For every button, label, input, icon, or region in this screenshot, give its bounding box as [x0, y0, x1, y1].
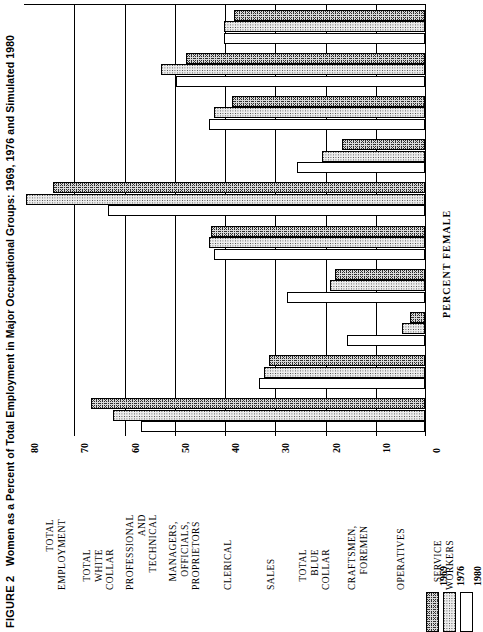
bar-1980	[108, 205, 425, 216]
axis-tick-60	[125, 422, 126, 436]
category-label: OPERATIVES	[395, 528, 407, 590]
category-label-line: TOTAL	[44, 519, 56, 590]
bar-group	[23, 135, 425, 178]
axis-tick-label-50: 50	[180, 443, 191, 453]
axis-tick-label-0: 0	[431, 448, 442, 453]
axis-tick-70	[74, 422, 75, 436]
bar-1969	[53, 182, 425, 193]
axis-tick-30	[275, 422, 276, 436]
legend-label-1976: 1976	[455, 566, 466, 586]
axis-tick-10	[376, 422, 377, 436]
axis-tick-label-40: 40	[230, 443, 241, 453]
bar-1980	[209, 119, 425, 130]
category-label-line: CRAFTSMEN,	[346, 526, 358, 590]
bar-1976	[402, 323, 425, 334]
bar-1969	[342, 139, 425, 150]
category-label-line: COLLAR	[104, 549, 116, 590]
bar-1976	[214, 107, 425, 118]
legend-swatch-1969	[426, 592, 439, 632]
bar-1976	[26, 194, 425, 205]
bar-1969	[91, 398, 425, 409]
category-label-line: COLLAR	[320, 549, 332, 590]
bar-1969	[335, 269, 425, 280]
axis-tick-label-70: 70	[79, 443, 90, 453]
bar-1976	[113, 410, 425, 421]
bar-group	[23, 91, 425, 134]
category-label-line: MANAGERS,	[167, 521, 179, 590]
bar-1969	[410, 312, 425, 323]
category-label: MANAGERS,OFFICIALS,PROPRIETORS	[167, 521, 202, 590]
category-label-line: SALES	[265, 558, 277, 590]
category-label: TOTALEMPLOYMENT	[44, 519, 67, 590]
category-label-line: OPERATIVES	[395, 528, 407, 590]
category-label: TOTALWHITECOLLAR	[81, 549, 116, 590]
category-label: SALES	[265, 558, 277, 590]
bar-group	[23, 178, 425, 221]
bar-group	[23, 5, 425, 48]
legend-label-1969: 1969	[438, 566, 449, 586]
bar-1969	[211, 226, 425, 237]
axis-tick-label-60: 60	[130, 443, 141, 453]
category-label-line: FOREMEN	[358, 526, 370, 590]
bar-1980	[141, 421, 425, 432]
bar-group	[23, 394, 425, 437]
bar-1969	[269, 355, 425, 366]
axis-tick-label-30: 30	[280, 443, 291, 453]
bar-1980	[297, 162, 425, 173]
category-label: TOTALBLUECOLLAR	[297, 549, 332, 590]
bar-1980	[259, 378, 425, 389]
axis-tick-label-80: 80	[29, 443, 40, 453]
category-label: CLERICAL	[222, 539, 234, 590]
legend-label-1980: 1980	[472, 566, 483, 586]
category-label-line: AND	[136, 514, 148, 590]
category-label-line: CLERICAL	[222, 539, 234, 590]
bar-1980	[176, 76, 425, 87]
legend-swatch-1976	[443, 592, 456, 632]
figure-number: FIGURE 2	[4, 576, 16, 628]
category-label-line: WHITE	[93, 549, 105, 590]
category-label-line: EMPLOYMENT	[55, 519, 67, 590]
bar-1976	[161, 64, 425, 75]
figure-title: Women as a Percent of Total Employment i…	[4, 35, 16, 566]
axis-tick-50	[175, 422, 176, 436]
category-axis-labels: TOTALEMPLOYMENTTOTALWHITECOLLARPROFESSIO…	[24, 438, 426, 598]
bar-1969	[186, 53, 425, 64]
bar-1980	[224, 33, 425, 44]
axis-title: PERCENT FEMALE	[441, 210, 452, 318]
bar-1969	[234, 10, 425, 21]
category-label: PROFESSIONALANDTECHNICAL	[124, 514, 159, 590]
bar-group	[23, 351, 425, 394]
bar-group	[23, 264, 425, 307]
bar-1976	[322, 151, 425, 162]
bar-1969	[232, 96, 425, 107]
category-label-line: PROPRIETORS	[190, 521, 202, 590]
category-label-line: BLUE	[309, 549, 321, 590]
axis-tick-40	[225, 422, 226, 436]
chart-legend: 196919761980	[426, 548, 479, 632]
category-label: CRAFTSMEN,FOREMEN	[346, 526, 369, 590]
category-label-line: TOTAL	[297, 549, 309, 590]
bar-1976	[264, 367, 425, 378]
bar-1976	[330, 280, 425, 291]
category-label-line: PROFESSIONAL	[124, 514, 136, 590]
bar-1980	[287, 292, 425, 303]
category-label-line: TECHNICAL	[147, 514, 159, 590]
bar-group	[23, 307, 425, 350]
axis-tick-20	[326, 422, 327, 436]
value-axis: 01020304050607080	[24, 436, 426, 437]
category-label-line: OFFICIALS,	[179, 521, 191, 590]
axis-tick-label-20: 20	[331, 443, 342, 453]
bar-group	[23, 48, 425, 91]
bar-1980	[214, 249, 425, 260]
category-label-line: TOTAL	[81, 549, 93, 590]
bar-1980	[347, 335, 425, 346]
legend-swatch-1980	[460, 592, 473, 632]
chart-plot-area	[24, 4, 426, 436]
bar-1976	[224, 21, 425, 32]
bar-group	[23, 221, 425, 264]
bar-1976	[209, 237, 425, 248]
axis-tick-label-10: 10	[381, 443, 392, 453]
